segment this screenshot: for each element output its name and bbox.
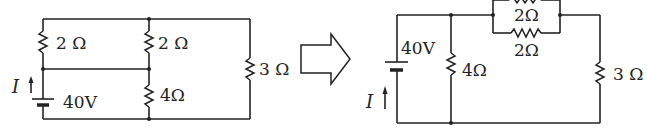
junction-dot	[41, 67, 45, 71]
resistor-label: 3 Ω	[613, 64, 643, 84]
resistor-icon	[246, 58, 254, 80]
current-label: I	[365, 91, 374, 112]
resistor-label: 4Ω	[160, 85, 185, 105]
voltage-label: 40V	[401, 38, 436, 58]
resistor-icon	[511, 29, 541, 37]
junction-dot	[449, 13, 453, 17]
junction-dot	[558, 13, 562, 17]
resistor-icon	[596, 62, 604, 84]
battery-icon	[385, 62, 408, 70]
junction-dot	[491, 13, 495, 17]
transform-arrow-icon	[301, 34, 350, 84]
resistor-label: 2 Ω	[56, 33, 86, 53]
current-arrow-icon	[29, 76, 34, 93]
current-arrow-icon	[383, 86, 388, 109]
resistor-label: 2Ω	[514, 40, 539, 60]
resistor-icon	[447, 53, 455, 75]
resistor-icon	[145, 85, 153, 107]
junction-dot	[147, 117, 151, 121]
resistor-icon	[145, 31, 153, 53]
resistor-label: 4Ω	[462, 60, 487, 80]
voltage-label: 40V	[63, 92, 98, 112]
resistor-label: 2Ω	[514, 5, 539, 25]
circuit-diagram: 2 Ω 2 Ω 4Ω 3 Ω 40V I	[0, 0, 647, 129]
resistor-icon	[509, 0, 541, 3]
junction-dot	[449, 121, 453, 125]
battery-icon	[32, 99, 54, 105]
resistor-label: 3 Ω	[259, 59, 289, 79]
resistor-icon	[39, 31, 47, 53]
right-circuit: 2Ω 2Ω 4Ω 3 Ω 40V I	[365, 0, 643, 125]
junction-dot	[147, 17, 151, 21]
resistor-label: 2 Ω	[158, 33, 188, 53]
left-circuit: 2 Ω 2 Ω 4Ω 3 Ω 40V I	[11, 17, 289, 121]
junction-dot	[147, 67, 151, 71]
current-label: I	[11, 76, 20, 97]
